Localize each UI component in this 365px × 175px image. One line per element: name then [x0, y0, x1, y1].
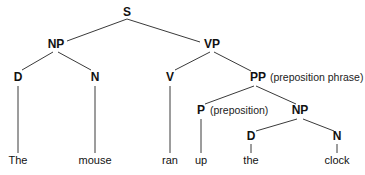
leaf-the-2: the — [243, 154, 258, 166]
node-n: N — [91, 70, 100, 84]
leaf-clock: clock — [324, 154, 350, 166]
edge-pp-p — [205, 86, 254, 104]
node-s: S — [123, 5, 131, 19]
leaf-up: up — [195, 154, 207, 166]
node-p: P — [197, 103, 205, 117]
node-d: D — [14, 70, 23, 84]
node-pp-gloss: (preposition phrase) — [270, 71, 363, 83]
edge-pp-np — [256, 86, 296, 104]
edge-np-n — [58, 52, 91, 70]
edge-np-d — [22, 52, 53, 70]
edge-s-vp — [127, 19, 200, 42]
node-pp: PP — [250, 70, 266, 84]
node-p-gloss: (preposition) — [210, 104, 268, 116]
leaf-mouse: mouse — [78, 154, 111, 166]
edge-np2-n — [303, 119, 334, 131]
node-vp: VP — [204, 37, 220, 51]
node-np: NP — [48, 37, 65, 51]
edge-s-np — [67, 19, 127, 41]
edge-np2-d — [256, 119, 297, 131]
tree-leaves: The mouse ran up the clock — [9, 154, 351, 166]
tree-edges — [18, 19, 337, 153]
edge-vp-pp — [214, 52, 251, 71]
node-v: V — [166, 70, 174, 84]
edge-vp-v — [175, 52, 210, 70]
syntax-tree: S NP VP D N V PP (preposition phrase) P … — [0, 0, 365, 175]
leaf-ran: ran — [162, 154, 178, 166]
node-d2: D — [247, 129, 256, 143]
node-np2: NP — [292, 103, 309, 117]
node-n2: N — [333, 129, 342, 143]
leaf-the: The — [9, 154, 28, 166]
